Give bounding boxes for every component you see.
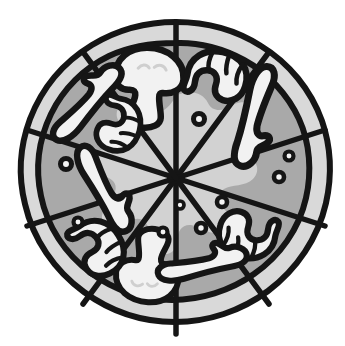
olive-topping <box>74 218 83 227</box>
olive-topping <box>217 197 227 207</box>
olive-topping <box>196 223 206 233</box>
olive-topping <box>194 114 205 125</box>
pizza-illustration <box>0 0 345 346</box>
olive-topping <box>159 228 168 237</box>
olive-topping <box>274 172 284 182</box>
olive-topping <box>176 201 184 209</box>
illustration-canvas <box>0 0 345 346</box>
olive-topping <box>61 159 72 170</box>
olive-topping <box>285 152 294 161</box>
